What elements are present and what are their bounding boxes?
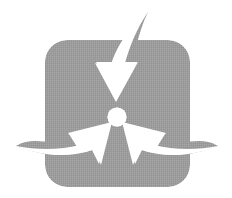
trefoil-arrows-logo: Gray rounded square badge with three whi… [0,0,232,198]
logo-canvas: Three-arrow convergence logo Gray rounde… [0,0,232,198]
center-circle [108,108,127,127]
